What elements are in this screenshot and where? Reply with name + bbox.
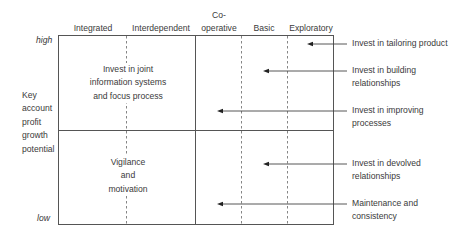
y-axis-high-label: high bbox=[36, 34, 52, 47]
annotation-line: Invest in tailoring product bbox=[352, 37, 448, 50]
arrow-improving bbox=[217, 109, 347, 113]
arrow-devolved bbox=[263, 162, 347, 166]
quadrant-bottom-left-text: Vigilance and motivation bbox=[96, 156, 160, 196]
quadrant-text-line: information systems bbox=[78, 76, 178, 89]
y-axis-title-line: profit bbox=[22, 116, 55, 129]
annotation-line: processes bbox=[352, 117, 424, 130]
column-label-integrated: Integrated bbox=[68, 22, 118, 35]
y-axis-title-line: Key bbox=[22, 89, 55, 102]
annotation-tailoring: Invest in tailoring product bbox=[352, 37, 448, 50]
quadrant-text-line: and bbox=[96, 169, 160, 182]
y-axis-low-label: low bbox=[37, 212, 50, 225]
annotation-line: Invest in improving bbox=[352, 104, 424, 117]
y-axis-title-line: account bbox=[22, 102, 55, 115]
annotation-line: relationships bbox=[352, 170, 421, 183]
column-label-cooperative-line1: Co- bbox=[196, 9, 242, 22]
arrow-tailoring bbox=[307, 42, 347, 46]
column-label-interdependent: Interdependent bbox=[128, 22, 194, 35]
quadrant-text-line: Invest in joint bbox=[78, 63, 178, 76]
annotation-line: relationships bbox=[352, 77, 416, 90]
column-label-basic: Basic bbox=[245, 22, 283, 35]
quadrant-text-line: Vigilance bbox=[96, 156, 160, 169]
column-label-cooperative-line2: operative bbox=[196, 22, 242, 35]
annotation-maintenance: Maintenance and consistency bbox=[352, 197, 418, 224]
annotation-line: Invest in devolved bbox=[352, 157, 421, 170]
arrow-building bbox=[263, 69, 347, 73]
annotation-improving: Invest in improving processes bbox=[352, 104, 424, 131]
annotation-devolved: Invest in devolved relationships bbox=[352, 157, 421, 184]
annotation-line: Maintenance and bbox=[352, 197, 418, 210]
quadrant-top-left-text: Invest in joint information systems and … bbox=[78, 63, 178, 103]
y-axis-title-line: potential bbox=[22, 143, 55, 156]
quadrant-text-line: motivation bbox=[96, 183, 160, 196]
column-label-exploratory: Exploratory bbox=[286, 22, 336, 35]
annotation-line: consistency bbox=[352, 210, 418, 223]
quadrant-text-line: and focus process bbox=[78, 90, 178, 103]
y-axis-title-line: growth bbox=[22, 129, 55, 142]
annotation-line: Invest in building bbox=[352, 64, 416, 77]
y-axis-title: Key account profit growth potential bbox=[22, 89, 55, 156]
annotation-building: Invest in building relationships bbox=[352, 64, 416, 91]
arrow-maintenance bbox=[217, 202, 347, 206]
